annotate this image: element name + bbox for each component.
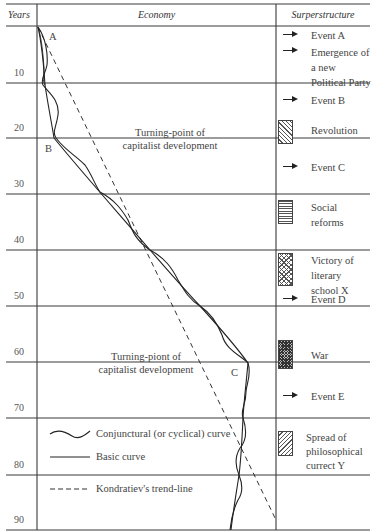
year-tick-90: 90 — [4, 514, 34, 525]
revolution-label: Revolution — [311, 124, 358, 137]
arrow-right-icon — [283, 395, 299, 397]
trend-line — [38, 27, 275, 518]
point-label-b: B — [45, 142, 52, 155]
turning-point-2-line1: Turning-piont of — [86, 350, 206, 363]
social-reforms-pattern-icon — [278, 200, 293, 224]
party-line-2: a new — [311, 60, 371, 75]
event-b-label: Event B — [311, 94, 345, 107]
event-party: Emergence of a new Political Party — [283, 45, 371, 90]
year-tick-70: 70 — [4, 402, 34, 413]
legend-conjunctural-label: Conjunctural (or cyclical) curve — [96, 427, 230, 440]
year-tick-80: 80 — [4, 459, 34, 470]
turning-point-2: Turning-piont of capitalist development — [86, 350, 206, 376]
social-reforms-label: Social reforms — [311, 200, 344, 230]
year-tick-30: 30 — [4, 178, 34, 189]
event-c-label: Event C — [311, 161, 345, 174]
arrow-right-icon — [283, 99, 299, 101]
event-b: Event B — [283, 94, 345, 107]
revolution-pattern-icon — [278, 120, 293, 144]
victory-pattern-icon — [278, 253, 293, 286]
victory-line-1: Victory of — [311, 253, 354, 268]
event-party-label: Emergence of a new Political Party — [311, 45, 371, 90]
turning-point-1: Turning-point of capitalist development — [100, 126, 240, 152]
legend-basic-label: Basic curve — [96, 450, 145, 463]
year-tick-10: 10 — [4, 67, 34, 78]
year-tick-40: 40 — [4, 234, 34, 245]
spread-line-3: currect Y — [306, 459, 363, 473]
event-d-label: Event D — [311, 293, 346, 306]
spread-line-1: Spread of — [306, 431, 363, 445]
victory-label: Victory of literary school X — [311, 253, 354, 298]
event-e-label: Event E — [311, 390, 345, 403]
turning-point-1-line2: capitalist development — [100, 139, 240, 152]
event-a-label: Event A — [311, 29, 345, 42]
arrow-right-icon — [283, 298, 299, 300]
spread-label: Spread of philosophical currect Y — [306, 431, 363, 473]
spread-pattern-icon — [278, 431, 293, 456]
party-line-1: Emergence of — [311, 45, 371, 60]
year-tick-20: 20 — [4, 122, 34, 133]
arrow-right-icon — [283, 34, 299, 36]
arrow-right-icon — [283, 166, 299, 168]
event-e: Event E — [283, 390, 345, 403]
turning-point-1-line1: Turning-point of — [100, 126, 240, 139]
social-reforms-line-2: reforms — [311, 215, 344, 230]
legend-trend-label: Kondratiev's trend-line — [96, 482, 193, 495]
spread-line-2: philosophical — [306, 445, 363, 459]
header-economy: Economy — [37, 8, 276, 21]
war-pattern-icon — [278, 340, 293, 369]
war-label: War — [311, 349, 328, 362]
event-d: Event D — [283, 293, 346, 306]
turning-point-2-line2: capitalist development — [86, 363, 206, 376]
social-reforms-line-1: Social — [311, 200, 344, 215]
party-line-3: Political Party — [311, 75, 371, 90]
year-tick-50: 50 — [4, 290, 34, 301]
arrow-right-icon — [283, 50, 299, 52]
event-a: Event A — [283, 29, 345, 42]
header-superstructure: Surperstructure — [276, 8, 370, 21]
legend-conjunctural-sample — [50, 431, 90, 438]
point-label-a: A — [49, 30, 57, 43]
event-c: Event C — [283, 161, 345, 174]
header-years: Years — [8, 8, 30, 21]
victory-line-2: literary — [311, 268, 354, 283]
point-label-c: C — [231, 366, 238, 379]
year-tick-60: 60 — [4, 346, 34, 357]
